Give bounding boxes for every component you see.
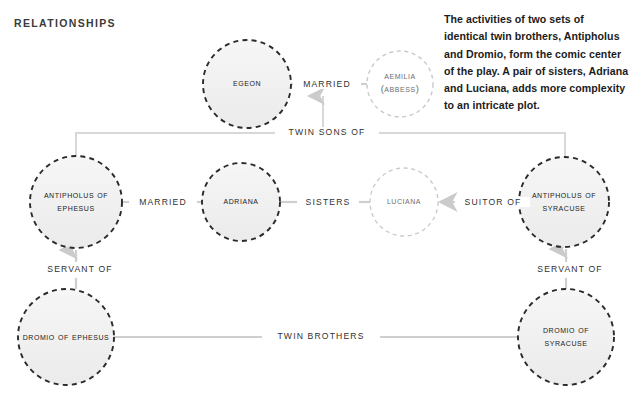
node-circle-luciana[interactable]	[370, 168, 438, 236]
edge-label-twin-sons-of: TWIN SONS OF	[275, 127, 379, 137]
edge-lines	[76, 84, 566, 337]
edge-label-twin-brothers: TWIN BROTHERS	[262, 331, 380, 341]
node-circle-antipholus-syracuse[interactable]	[519, 157, 609, 247]
node-circle-egeon[interactable]	[203, 40, 291, 128]
node-circle-dromio-syracuse[interactable]	[518, 289, 614, 385]
node-circle-adriana[interactable]	[202, 163, 280, 241]
edge-label-suitor-of: SUITOR OF	[456, 197, 530, 207]
edge-label-married-top: MARRIED	[293, 79, 361, 89]
node-circle-aemilia[interactable]	[367, 51, 433, 117]
node-circle-antipholus-ephesus[interactable]	[30, 156, 122, 248]
edge-label-servant-of-right: SERVANT OF	[523, 264, 617, 274]
edge-label-sisters: SISTERS	[297, 197, 359, 207]
node-circle-dromio-ephesus[interactable]	[18, 289, 114, 385]
edge-label-married-mid: MARRIED	[129, 197, 197, 207]
relationships-diagram: RELATIONSHIPS The activities of two sets…	[0, 0, 634, 397]
edge-label-servant-of-left: SERVANT OF	[33, 264, 127, 274]
